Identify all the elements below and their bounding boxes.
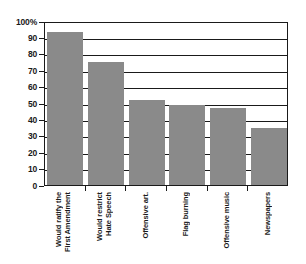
bar (129, 100, 165, 185)
y-axis: 0102030405060708090100% (0, 0, 44, 264)
x-category-label: Offensive art. (141, 192, 150, 264)
y-tick-label: 20 (28, 149, 37, 158)
y-tick-label: 80 (28, 50, 37, 59)
bar (210, 108, 246, 185)
y-tick-label: 70 (28, 67, 37, 76)
x-tick-mark (125, 186, 126, 191)
x-category-label-line: Would restrict (95, 192, 104, 241)
bar (251, 128, 287, 185)
x-tick-mark (85, 186, 86, 191)
x-category-label: Would ratify theFirst Amendment (54, 192, 72, 264)
x-category-label: Flag burning (181, 192, 190, 264)
x-category-label: Newspapers (263, 192, 272, 264)
x-category-label: Offensive music (222, 192, 231, 264)
x-tick-mark (207, 186, 208, 191)
y-tick-label: 100% (16, 18, 37, 27)
y-tick-label: 90 (28, 34, 37, 43)
bar (169, 105, 205, 185)
y-tick-label: 60 (28, 83, 37, 92)
x-tick-mark (166, 186, 167, 191)
x-category-label: Would restrictHate Speech (95, 192, 113, 264)
x-axis-labels: Would ratify theFirst AmendmentWould res… (44, 192, 288, 264)
y-tick-label: 10 (28, 165, 37, 174)
bar (47, 32, 83, 185)
x-category-label-line: Hate Speech (104, 192, 113, 236)
bar-chart: 0102030405060708090100% Would ratify the… (0, 0, 306, 264)
plot-area (44, 22, 288, 186)
x-tick-mark (247, 186, 248, 191)
x-category-label-line: Offensive music (222, 192, 231, 248)
x-category-label-line: First Amendment (63, 192, 72, 252)
x-category-label-line: Offensive art. (141, 192, 150, 239)
y-tick-label: 0 (32, 182, 37, 191)
y-tick-label: 40 (28, 116, 37, 125)
bars-group (45, 23, 287, 185)
x-category-label-line: Flag burning (181, 192, 190, 236)
x-category-label-line: Newspapers (263, 192, 272, 235)
y-tick-label: 50 (28, 100, 37, 109)
x-category-label-line: Would ratify the (54, 192, 63, 247)
bar (88, 62, 124, 185)
y-tick-label: 30 (28, 132, 37, 141)
